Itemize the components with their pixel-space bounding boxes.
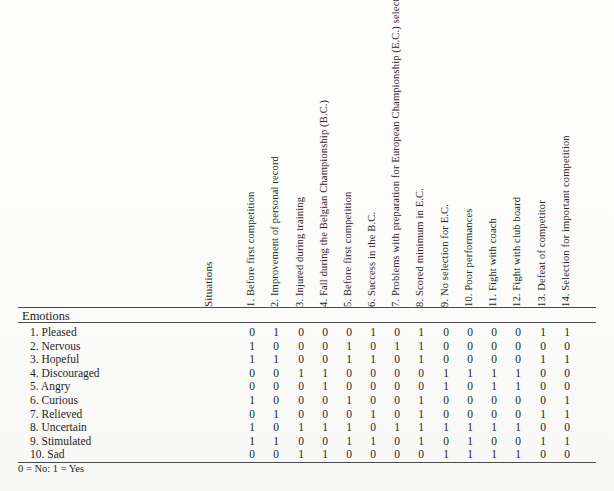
- table-cell: 1: [366, 435, 380, 447]
- table-cell: 1: [487, 448, 501, 460]
- table-cell: 0: [463, 394, 477, 406]
- table-cell: 0: [390, 394, 404, 406]
- table-cell: 0: [560, 367, 574, 379]
- table-cell: 1: [342, 353, 356, 365]
- table-cell: 0: [463, 340, 477, 352]
- table-cell: 1: [439, 380, 453, 392]
- row-header: 9. Stimulated: [30, 435, 91, 447]
- table-cell: 0: [245, 380, 259, 392]
- row-header: 1. Pleased: [30, 326, 77, 338]
- table-cell: 1: [536, 353, 550, 365]
- row-header: 10. Sad: [30, 448, 65, 460]
- table-row: 3. Hopeful11001101000011: [0, 353, 614, 367]
- table-cell: 0: [511, 326, 525, 338]
- row-header: 4. Discouraged: [30, 367, 100, 379]
- table-cell: 0: [294, 353, 308, 365]
- table-cell: 1: [560, 353, 574, 365]
- table-body: 1. Pleased010001010000112. Nervous100010…: [0, 326, 614, 462]
- column-headers: Situations 1. Before first competition 2…: [0, 140, 614, 307]
- table-cell: 1: [366, 326, 380, 338]
- table-row: 4. Discouraged00110000111100: [0, 367, 614, 381]
- table-cell: 1: [318, 448, 332, 460]
- column-header: 6. Success in the B.C.: [366, 212, 377, 307]
- table-row: 6. Curious10001001000001: [0, 394, 614, 408]
- table-cell: 0: [342, 367, 356, 379]
- table-cell: 0: [294, 408, 308, 420]
- table-cell: 0: [414, 367, 428, 379]
- table-footnote: 0 = No: 1 = Yes: [18, 463, 84, 474]
- table-cell: 1: [536, 435, 550, 447]
- table-cell: 0: [487, 340, 501, 352]
- table-cell: 1: [342, 340, 356, 352]
- table-cell: 0: [366, 380, 380, 392]
- row-header: 3. Hopeful: [30, 353, 79, 365]
- table-cell: 0: [294, 340, 308, 352]
- column-header: 9. No selection for E.C.: [439, 204, 450, 307]
- table-cell: 1: [318, 421, 332, 433]
- table-cell: 1: [342, 421, 356, 433]
- table-cell: 0: [511, 340, 525, 352]
- table-row: 2. Nervous10001011000000: [0, 340, 614, 354]
- table-rule-top: [18, 307, 596, 308]
- table-cell: 1: [487, 367, 501, 379]
- table-cell: 0: [439, 340, 453, 352]
- table-cell: 1: [414, 326, 428, 338]
- table-cell: 0: [560, 380, 574, 392]
- table-cell: 1: [487, 380, 501, 392]
- table-cell: 0: [294, 435, 308, 447]
- table-cell: 1: [269, 408, 283, 420]
- table-cell: 0: [487, 326, 501, 338]
- table-cell: 0: [536, 367, 550, 379]
- table-cell: 0: [511, 353, 525, 365]
- table-cell: 0: [269, 380, 283, 392]
- column-header: 10. Poor performances: [463, 209, 474, 308]
- table-cell: 0: [390, 367, 404, 379]
- table-cell: 0: [536, 421, 550, 433]
- table-cell: 0: [463, 408, 477, 420]
- table-cell: 0: [318, 408, 332, 420]
- table-cell: 1: [245, 421, 259, 433]
- table-row: 9. Stimulated11001101010011: [0, 435, 614, 449]
- table-cell: 0: [366, 448, 380, 460]
- table-row: 1. Pleased01000101000011: [0, 326, 614, 340]
- table-cell: 1: [269, 435, 283, 447]
- table-cell: 0: [294, 394, 308, 406]
- table-cell: 1: [511, 448, 525, 460]
- table-cell: 0: [269, 421, 283, 433]
- table-cell: 1: [511, 421, 525, 433]
- table-cell: 0: [342, 380, 356, 392]
- table-rule-mid: [18, 322, 596, 323]
- table-cell: 0: [294, 380, 308, 392]
- table-cell: 0: [439, 394, 453, 406]
- table-cell: 1: [414, 353, 428, 365]
- table-rule-bottom: [18, 462, 596, 463]
- table-cell: 0: [463, 353, 477, 365]
- table-cell: 0: [511, 408, 525, 420]
- table-row: 8. Uncertain10111011111100: [0, 421, 614, 435]
- table-cell: 1: [463, 435, 477, 447]
- table-cell: 1: [294, 448, 308, 460]
- column-header: 2. Improvement of personal record: [269, 156, 280, 307]
- column-header: 3. Injured during training: [294, 197, 305, 307]
- row-header: 6. Curious: [30, 394, 78, 406]
- table-cell: 0: [245, 408, 259, 420]
- table-cell: 1: [463, 367, 477, 379]
- table-cell: 1: [390, 340, 404, 352]
- table-cell: 0: [390, 435, 404, 447]
- table-row: 7. Relieved01000101000011: [0, 408, 614, 422]
- table-cell: 1: [245, 394, 259, 406]
- table-cell: 0: [245, 367, 259, 379]
- table-cell: 0: [269, 367, 283, 379]
- table-cell: 1: [463, 421, 477, 433]
- table-cell: 1: [414, 435, 428, 447]
- table-cell: 1: [560, 435, 574, 447]
- row-header: 8. Uncertain: [30, 421, 87, 433]
- table-cell: 0: [463, 380, 477, 392]
- table-cell: 1: [560, 326, 574, 338]
- table-cell: 0: [366, 394, 380, 406]
- table-cell: 1: [294, 367, 308, 379]
- table-cell: 1: [560, 394, 574, 406]
- table-cell: 0: [318, 353, 332, 365]
- table-cell: 1: [342, 435, 356, 447]
- table-cell: 0: [439, 326, 453, 338]
